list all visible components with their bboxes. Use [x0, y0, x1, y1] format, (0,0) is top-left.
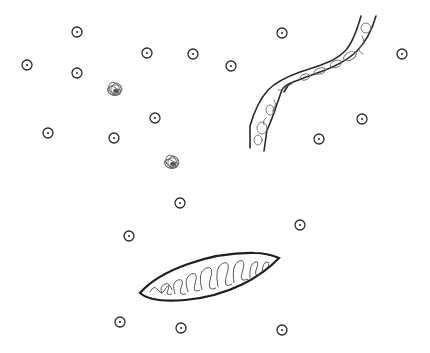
cell-icon	[176, 323, 186, 333]
cell-icon	[357, 114, 367, 124]
cell-icon	[295, 220, 305, 230]
cell-icon	[142, 48, 152, 58]
cell-icon	[150, 113, 160, 123]
cell-icon	[188, 49, 198, 59]
cell-icon	[175, 198, 185, 208]
cell-icon	[43, 128, 53, 138]
cell-icon	[277, 28, 287, 38]
cell-icon	[277, 325, 287, 335]
cell-icon	[109, 133, 119, 143]
elongated-body-shape	[140, 253, 279, 301]
cell-cluster-icon	[106, 80, 123, 97]
vessel-shape	[250, 16, 376, 151]
diagram-svg	[0, 0, 430, 353]
cell-icon	[72, 68, 82, 78]
cell-icon	[22, 60, 32, 70]
cell-icon	[124, 231, 134, 241]
cell-icon	[397, 49, 407, 59]
cell-icon	[226, 61, 236, 71]
cell-icon	[72, 27, 82, 37]
cluster-group	[106, 80, 180, 170]
cell-icon	[115, 317, 125, 327]
diagram-canvas	[0, 0, 430, 353]
cell-cluster-icon	[163, 153, 180, 170]
cell-icon	[314, 134, 324, 144]
